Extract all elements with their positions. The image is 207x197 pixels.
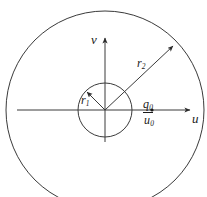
- axis-label-u: u: [192, 112, 199, 125]
- axis-label-v: v: [91, 33, 97, 46]
- diagram-canvas: [0, 0, 207, 197]
- radius-label-r1: r1: [81, 94, 90, 108]
- r1-arrow: [87, 92, 105, 110]
- charge-label-q0: q0: [143, 98, 153, 112]
- radius-label-r2: r2: [137, 57, 146, 71]
- position-label-u0: u0: [144, 114, 154, 128]
